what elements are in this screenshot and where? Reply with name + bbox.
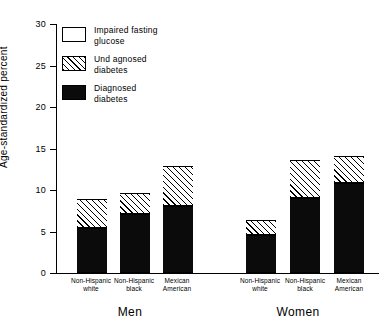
legend-item-2: Diagnoseddiabetes — [62, 84, 212, 108]
group-label-men: Men — [70, 305, 190, 319]
bar-men-1 — [120, 128, 150, 273]
bar-segment-undiagnosed — [163, 166, 193, 206]
bar-segment-undiagnosed — [120, 193, 150, 214]
bar-segment-diagnosed — [290, 198, 320, 272]
x-tick-label-2: Mexican American — [144, 277, 210, 293]
bar-men-0 — [77, 132, 107, 273]
chart-figure: Age-standardized percent 302520151050 No… — [0, 0, 389, 333]
y-tick-label: 0 — [41, 269, 46, 278]
bar-segment-undiagnosed — [246, 220, 276, 235]
legend-label-line2: diabetes — [94, 94, 136, 105]
legend-label-line2: diabetes — [94, 65, 147, 76]
y-tick-label: 10 — [36, 186, 46, 195]
x-tick-label-5-line2: American — [316, 285, 382, 293]
legend-label-0: Impaired fastingglucose — [94, 25, 158, 46]
bar-segment-impaired-fasting-glucose — [120, 127, 150, 193]
legend-label-1: Und agnoseddiabetes — [94, 54, 147, 75]
x-tick-label-2-line2: American — [144, 285, 210, 293]
legend-label-line1: Und agnosed — [94, 54, 147, 65]
group-label-women: Women — [238, 305, 358, 319]
x-tick-label-2-line1: Mexican — [144, 277, 210, 285]
bar-segment-impaired-fasting-glucose — [334, 98, 364, 156]
y-tick-mark — [50, 190, 56, 191]
legend-swatch-black — [62, 85, 86, 100]
bar-segment-undiagnosed — [77, 199, 107, 228]
y-tick-label: 30 — [36, 20, 46, 29]
legend-label-line2: glucose — [94, 36, 158, 47]
y-tick-mark — [50, 66, 56, 67]
y-tick-mark — [50, 24, 56, 25]
y-tick-label: 5 — [41, 227, 46, 236]
legend-label-line1: Impaired fasting — [94, 25, 158, 36]
bar-segment-diagnosed — [334, 183, 364, 272]
legend-item-0: Impaired fastingglucose — [62, 26, 212, 50]
bar-women-5 — [334, 99, 364, 273]
x-tick-label-5: Mexican American — [316, 277, 382, 293]
y-tick-mark — [50, 232, 56, 233]
y-axis-title: Age-standardized percent — [0, 46, 9, 168]
legend-label-2: Diagnoseddiabetes — [94, 83, 136, 104]
y-tick-label: 25 — [36, 61, 46, 70]
x-tick-label-5-line1: Mexican — [316, 277, 382, 285]
bar-segment-undiagnosed — [334, 156, 364, 183]
legend-label-line1: Diagnosed — [94, 83, 136, 94]
y-tick-mark — [50, 149, 56, 150]
legend-item-1: Und agnoseddiabetes — [62, 55, 212, 79]
bar-segment-impaired-fasting-glucose — [77, 131, 107, 199]
y-tick-mark — [50, 107, 56, 108]
bar-segment-undiagnosed — [290, 160, 320, 198]
bar-segment-impaired-fasting-glucose — [246, 181, 276, 220]
bar-segment-diagnosed — [163, 206, 193, 272]
bar-segment-impaired-fasting-glucose — [290, 106, 320, 160]
bar-segment-diagnosed — [77, 228, 107, 272]
bar-women-4 — [290, 107, 320, 273]
y-tick-label: 20 — [36, 103, 46, 112]
x-axis-line — [56, 273, 379, 274]
bar-segment-diagnosed — [120, 214, 150, 272]
chart-legend: Impaired fastingglucoseUnd agnoseddiabet… — [62, 26, 212, 113]
bar-women-3 — [246, 182, 276, 273]
bar-segment-diagnosed — [246, 235, 276, 272]
legend-swatch-hatched — [62, 56, 86, 71]
y-tick-label: 15 — [36, 144, 46, 153]
legend-swatch-white — [62, 27, 86, 42]
